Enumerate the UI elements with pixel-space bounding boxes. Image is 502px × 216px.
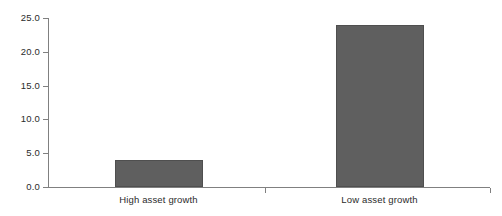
x-axis-end-tick-mark (490, 188, 491, 193)
y-axis-tick: 10.0 (0, 114, 48, 124)
y-axis-tick: 5.0 (0, 148, 48, 158)
y-axis-tick-label: 25.0 (0, 13, 40, 23)
y-axis-tick-label: 5.0 (0, 148, 40, 158)
x-axis-category-label: High asset growth (48, 194, 269, 206)
x-axis-category-label: Low asset growth (269, 194, 490, 206)
y-axis-tick: 0.0 (0, 182, 48, 192)
bar-chart: 0.05.010.015.020.025.0 High asset growth… (0, 0, 502, 216)
x-axis-line (48, 187, 490, 188)
y-axis-tick: 20.0 (0, 47, 48, 57)
bar (115, 160, 203, 187)
y-axis-tick-label: 15.0 (0, 81, 40, 91)
y-axis-tick: 25.0 (0, 13, 48, 23)
y-axis-line (48, 18, 49, 188)
x-axis-tick-mark (265, 188, 266, 193)
y-axis-tick-label: 10.0 (0, 114, 40, 124)
bar (336, 25, 424, 187)
y-axis-tick: 15.0 (0, 81, 48, 91)
y-axis-tick-label: 20.0 (0, 47, 40, 57)
y-axis-tick-label: 0.0 (0, 182, 40, 192)
